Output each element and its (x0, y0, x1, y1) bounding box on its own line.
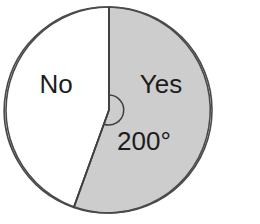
angle-value-label: 200° (117, 126, 171, 156)
slice-label-yes: Yes (140, 69, 182, 99)
slice-label-no: No (39, 69, 72, 99)
pie-chart-figure: 000 No Yes 200° (0, 0, 260, 224)
pie-chart-svg: 000 No Yes 200° (0, 0, 260, 224)
